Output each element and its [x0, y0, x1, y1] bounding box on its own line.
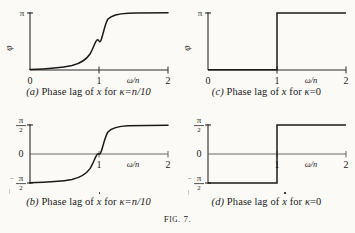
panel-a-ylabel-pi: π: [20, 8, 25, 18]
panel-b-xlabel: ω/n: [127, 159, 140, 169]
panel-d-svg: π 2 0 π 2 − 1 2 ω/n: [178, 110, 355, 198]
panel-d-ylabel-neg-pi-den: 2: [197, 184, 201, 191]
panel-d-ylabel-pi-den: 2: [197, 126, 201, 133]
panel-a-caption-eq: =n/10: [125, 86, 151, 97]
panel-d-plot: π 2 0 π 2 − 1 2 ω/n: [178, 110, 355, 198]
panel-a-xlabel: ω/n: [127, 75, 140, 85]
panel-c-xlabel: ω/n: [305, 75, 318, 85]
figure-number-ig: IG: [169, 215, 178, 224]
panel-d-caption-pre: Phase lag of: [227, 196, 280, 207]
panel-b-ylabel-pi-den: 2: [19, 126, 23, 133]
panel-c-caption-var: x: [282, 86, 287, 97]
panel-d-tag: (d): [212, 196, 225, 207]
panel-d-xticklabel-2: 2: [344, 159, 349, 170]
panel-d-caption-var: x: [282, 195, 287, 208]
panel-d-ylabel-zero: 0: [197, 148, 202, 159]
panel-a-curve: [30, 13, 168, 70]
panel-d-caption-mid: for: [290, 196, 303, 207]
panel-b-plot: π 2 0 π 2 − 1 2 ω/n: [0, 110, 177, 198]
panel-b: π 2 0 π 2 − 1 2 ω/n (b) Phase lag of x f…: [0, 110, 177, 220]
panel-b-ylabel-neg-pi-num: π: [19, 173, 24, 183]
panel-c-caption: (c) Phase lag of x for κ=0: [178, 85, 355, 98]
panel-a-caption: (a) Phase lag of x for κ=n/10: [0, 85, 177, 98]
panel-d-xlabel: ω/n: [305, 159, 318, 169]
scan-speck: [188, 190, 189, 195]
panel-b-caption-eq: =n/10: [125, 196, 151, 207]
panel-c-ylabel: φ: [182, 45, 192, 50]
panel-d: π 2 0 π 2 − 1 2 ω/n (d) Phase lag of x f…: [178, 110, 355, 220]
panel-a-caption-mid: for: [104, 86, 117, 97]
scan-speck: [9, 189, 10, 194]
panel-b-caption-var: x: [97, 195, 102, 208]
panel-b-ylabel-minus-sign: −: [10, 175, 14, 182]
panel-a-ylabel: φ: [4, 45, 14, 50]
panel-d-xticklabel-1: 1: [275, 159, 280, 170]
panel-d-caption: (d) Phase lag of x for κ=0: [178, 195, 355, 208]
panel-c-curve: [208, 13, 346, 70]
panel-a-caption-pre: Phase lag of: [41, 86, 94, 97]
panel-c-svg: φ π 0 1 2 ω/n: [178, 0, 355, 88]
panel-c-caption-mid: for: [289, 86, 302, 97]
panel-b-caption: (b) Phase lag of x for κ=n/10: [0, 195, 177, 208]
panel-a: φ π 0 1 2 ω/n (a) Phase lag of x for κ=n…: [0, 0, 177, 110]
panel-b-caption-pre: Phase lag of: [41, 196, 94, 207]
panel-c-caption-pre: Phase lag of: [227, 86, 280, 97]
figure-7: φ π 0 1 2 ω/n (a) Phase lag of x for κ=n…: [0, 0, 355, 233]
panel-a-plot: φ π 0 1 2 ω/n: [0, 0, 177, 88]
panel-b-xticklabel-2: 2: [166, 159, 171, 170]
panel-a-caption-var: x: [97, 86, 102, 97]
panel-b-caption-mid: for: [104, 196, 117, 207]
figure-number: FIG. 7.: [0, 214, 355, 224]
panel-c-ylabel-pi: π: [198, 8, 203, 18]
panel-b-ylabel-neg-pi-den: 2: [19, 184, 23, 191]
panel-c-tag: (c): [212, 86, 224, 97]
panel-b-tag: (b): [26, 196, 39, 207]
panel-b-xticklabel-1: 1: [97, 159, 102, 170]
panel-d-ylabel-pi-num: π: [197, 115, 202, 125]
panel-b-svg: π 2 0 π 2 − 1 2 ω/n: [0, 110, 177, 198]
panel-d-ylabel-minus-sign: −: [188, 175, 192, 182]
panel-a-svg: φ π 0 1 2 ω/n: [0, 0, 177, 88]
panel-a-tag: (a): [26, 86, 39, 97]
figure-number-tail: . 7.: [178, 214, 191, 224]
panel-b-ylabel-zero: 0: [19, 148, 24, 159]
panel-d-ylabel-neg-pi-num: π: [197, 173, 202, 183]
panel-c-plot: φ π 0 1 2 ω/n: [178, 0, 355, 88]
panel-d-caption-eq: =0: [310, 196, 321, 207]
panel-b-ylabel-pi-num: π: [19, 115, 24, 125]
panel-c-caption-eq: =0: [310, 86, 321, 97]
panel-c: φ π 0 1 2 ω/n (c) Phase lag of x for κ=0: [178, 0, 355, 110]
